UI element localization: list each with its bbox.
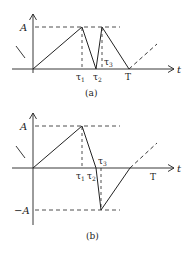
next-period-dashed [129, 44, 157, 69]
label-tau1: τ1 [76, 171, 85, 182]
label-tau2: τ2 [87, 171, 96, 182]
label-tau3: τ3 [98, 156, 107, 167]
label-t: t [177, 163, 182, 174]
label-neg-A: −A [14, 205, 30, 216]
previous-period-dash [16, 146, 25, 158]
previous-period-dash [16, 46, 25, 58]
next-period-dashed [130, 143, 157, 168]
caption-b: (b) [86, 231, 99, 241]
label-T: T [125, 72, 131, 82]
label-t: t [177, 64, 182, 75]
label-tau1: τ1 [76, 72, 85, 83]
label-tau2: τ2 [93, 72, 102, 83]
waveform-diagrams: A t τ1 τ2 τ3 T (a) A −A t τ1 τ2 τ3 T (b) [0, 0, 191, 254]
diagram-b: A −A t τ1 τ2 τ3 T (b) [12, 113, 182, 241]
label-T: T [150, 172, 156, 182]
label-A: A [19, 121, 27, 132]
caption-a: (a) [85, 88, 97, 98]
label-A: A [19, 22, 27, 33]
diagram-a: A t τ1 τ2 τ3 T (a) [12, 14, 182, 98]
waveform [33, 27, 129, 69]
label-tau3: τ3 [104, 57, 113, 68]
